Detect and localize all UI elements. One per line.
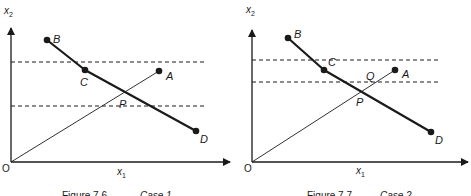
point-C [82,67,89,74]
label-C: C [80,76,88,88]
frontier-B-C-D [47,40,196,131]
label-B: B [53,33,60,45]
caption-number: Figure 7.7 [307,190,352,196]
y-axis-label: x2 [245,4,255,17]
x-axis-label: x1 [116,166,126,179]
frontier-B-C-D [288,38,431,132]
point-C [321,67,328,74]
figures-canvas: x2 x1 O B C A D P Figure 7.6 Case 1 x2 x… [0,0,471,196]
caption-case: Case 1 [140,190,172,196]
label-P: P [119,98,127,110]
label-C: C [328,56,336,68]
point-A [156,68,163,75]
label-A: A [165,70,173,82]
label-A: A [401,68,409,80]
x-axis-label: x1 [355,165,365,178]
label-D: D [435,134,443,146]
ray-O-A [252,70,395,162]
label-D: D [200,133,208,145]
origin-label: O [244,163,252,174]
point-D [428,129,435,136]
label-Q: Q [366,70,375,82]
label-P: P [356,96,364,108]
point-A [392,67,399,74]
caption-number: Figure 7.6 [62,190,107,196]
point-D [193,128,200,135]
origin-label: O [2,163,10,174]
point-B [285,35,292,42]
figure-7-6: x2 x1 O B C A D P Figure 7.6 Case 1 [2,5,230,196]
label-B: B [294,28,301,40]
point-B [44,37,51,44]
figure-7-7: x2 x1 O B C A D Q P Figure 7.7 Case 2 [244,4,468,196]
y-axis-label: x2 [3,5,13,18]
caption-case: Case 2 [380,190,412,196]
